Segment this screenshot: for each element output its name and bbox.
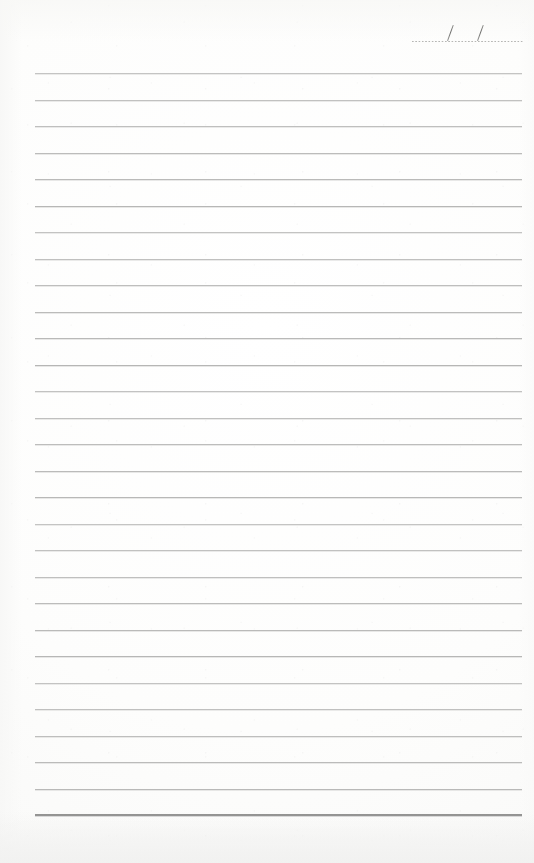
writing-rule-line: [35, 206, 522, 207]
writing-rule-line: [35, 497, 522, 498]
writing-rule-line: [35, 550, 522, 551]
writing-rule-line: [35, 709, 522, 710]
date-separator-slash-first: [447, 25, 454, 41]
writing-rule-line: [35, 736, 522, 737]
paper-background: [0, 0, 534, 863]
writing-rule-line: [35, 73, 522, 74]
writing-rule-line: [35, 179, 522, 180]
writing-rule-line: [35, 418, 522, 419]
bottom-border-rule: [35, 814, 522, 816]
writing-rule-line: [35, 232, 522, 233]
writing-rule-line: [35, 603, 522, 604]
writing-rule-line: [35, 471, 522, 472]
writing-rule-line: [35, 365, 522, 366]
writing-rule-line: [35, 762, 522, 763]
writing-rule-line: [35, 285, 522, 286]
date-field[interactable]: [412, 20, 524, 42]
writing-rule-line: [35, 338, 522, 339]
writing-rule-line: [35, 524, 522, 525]
writing-rule-line: [35, 444, 522, 445]
notebook-page: [0, 0, 534, 863]
writing-rule-line: [35, 630, 522, 631]
writing-rule-line: [35, 391, 522, 392]
date-separator-slash-second: [477, 25, 484, 41]
date-field-rule: [412, 41, 524, 42]
writing-rule-line: [35, 577, 522, 578]
writing-rule-line: [35, 656, 522, 657]
writing-rule-line: [35, 153, 522, 154]
writing-rule-line: [35, 312, 522, 313]
writing-rule-line: [35, 789, 522, 790]
writing-rule-line: [35, 683, 522, 684]
writing-rule-line: [35, 259, 522, 260]
writing-rule-line: [35, 100, 522, 101]
writing-rule-line: [35, 126, 522, 127]
